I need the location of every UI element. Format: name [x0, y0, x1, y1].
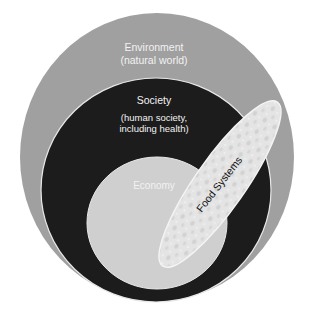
environment-sublabel: (natural world) [120, 54, 187, 66]
nested-systems-diagram: Environment (natural world) Society (hum… [0, 0, 310, 323]
society-sublabel-line1: (human society, [121, 112, 187, 123]
environment-label: Environment [125, 41, 184, 53]
economy-label: Economy [133, 180, 175, 191]
society-label: Society [137, 94, 172, 106]
society-sublabel-line2: including health) [119, 123, 188, 134]
